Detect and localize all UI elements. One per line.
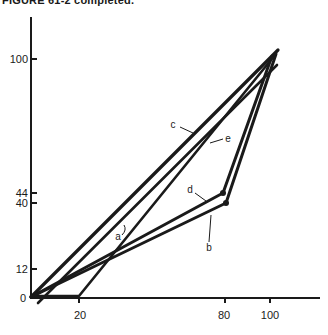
x-tick-label-20: 20: [74, 309, 86, 321]
y-tick-label-100: 100: [10, 53, 28, 65]
chart: 100 44 40 12 0 20 80 100 c e d b a: [0, 0, 328, 335]
arrow-e: [210, 139, 223, 143]
x-tick-label-80: 80: [218, 309, 230, 321]
label-e: e: [225, 133, 231, 144]
line-e: [38, 65, 277, 303]
label-c: c: [171, 119, 176, 130]
point-d: [220, 190, 226, 196]
y-tick-label-40: 40: [16, 197, 28, 209]
line-c: [31, 50, 278, 297]
point-b: [223, 200, 229, 206]
arrow-a: [122, 225, 125, 235]
x-tick-label-100: 100: [261, 309, 279, 321]
label-b: b: [206, 242, 212, 253]
arrow-c: [180, 127, 193, 133]
arrow-d: [195, 193, 206, 201]
y-tick-label-12: 12: [16, 263, 28, 275]
label-a: a: [115, 231, 121, 242]
arrow-b: [209, 215, 211, 242]
y-tick-label-0: 0: [20, 292, 26, 304]
label-d: d: [187, 184, 193, 195]
